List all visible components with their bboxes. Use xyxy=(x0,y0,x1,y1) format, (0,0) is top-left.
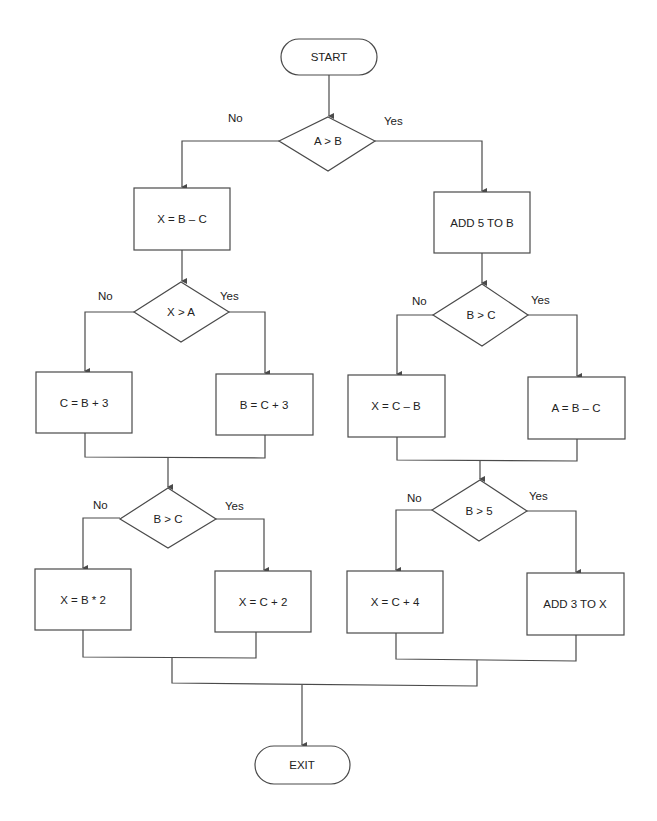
merge-left-lower xyxy=(83,630,256,658)
branch-label-no: No xyxy=(407,492,422,504)
process-x-eq-c-plus-2: X = C + 2 xyxy=(215,571,311,632)
process-label: X = C – B xyxy=(371,400,421,412)
process-x-eq-b-minus-c: X = B – C xyxy=(134,188,230,250)
process-x-eq-c-minus-b: X = C – B xyxy=(348,375,445,437)
merge-final xyxy=(172,658,477,686)
process-label: X = C + 2 xyxy=(239,596,288,608)
merge-right-lower xyxy=(396,633,576,661)
connector-d2-no xyxy=(85,312,134,371)
decision-b-gt-c-label: B > C xyxy=(153,513,182,525)
process-label: X = C + 4 xyxy=(371,596,420,608)
branch-label-yes: Yes xyxy=(225,500,244,512)
merge-right-upper xyxy=(397,437,577,461)
process-label: ADD 5 TO B xyxy=(450,217,514,229)
process-label: X = B * 2 xyxy=(60,594,106,606)
decision-b-gt-c-lower: B > C xyxy=(120,488,216,548)
connector-d4-no xyxy=(83,518,120,568)
decision-a-gt-b: A > B xyxy=(279,117,375,171)
process-x-eq-b-times-2: X = B * 2 xyxy=(35,569,131,630)
process-label: B = C + 3 xyxy=(240,399,289,411)
start-terminal: START xyxy=(281,39,377,75)
connector-d5-yes xyxy=(527,511,576,572)
connector-d3-yes xyxy=(528,315,577,376)
decision-b-gt-c-upper: B > C xyxy=(433,284,528,346)
branch-label-no: No xyxy=(228,112,243,124)
decision-b-gt-5-label: B > 5 xyxy=(465,505,492,517)
branch-label-no: No xyxy=(98,290,113,302)
connector-d2-yes xyxy=(229,312,265,373)
branch-label-yes: Yes xyxy=(529,490,548,502)
process-label: A = B – C xyxy=(552,402,601,414)
process-label: C = B + 3 xyxy=(60,397,109,409)
merge-left-upper xyxy=(85,433,265,458)
process-add-5-to-b: ADD 5 TO B xyxy=(434,192,530,253)
process-b-eq-c-plus-3: B = C + 3 xyxy=(216,374,313,435)
exit-terminal: EXIT xyxy=(255,746,350,784)
branch-label-no: No xyxy=(93,499,108,511)
connector-d1-no xyxy=(182,141,279,187)
branch-label-yes: Yes xyxy=(531,294,550,306)
process-a-eq-b-minus-c: A = B – C xyxy=(528,377,625,439)
connector-d5-no xyxy=(396,510,432,570)
decision-b-gt-c-label: B > C xyxy=(466,309,495,321)
branch-label-no: No xyxy=(412,295,427,307)
decision-a-gt-b-label: A > B xyxy=(314,135,342,147)
decision-x-gt-a: X > A xyxy=(134,282,229,342)
process-label: ADD 3 TO X xyxy=(543,598,607,610)
decision-b-gt-5: B > 5 xyxy=(432,480,527,541)
process-c-eq-b-plus-3: C = B + 3 xyxy=(36,372,132,433)
connector-d4-yes xyxy=(216,519,264,570)
process-x-eq-c-plus-4: X = C + 4 xyxy=(347,571,443,633)
decision-x-gt-a-label: X > A xyxy=(167,306,195,318)
process-add-3-to-x: ADD 3 TO X xyxy=(527,573,624,635)
start-label: START xyxy=(311,51,348,63)
flowchart-canvas: START A > B No Yes X = B – C ADD 5 TO B … xyxy=(0,0,657,821)
exit-label: EXIT xyxy=(289,759,315,771)
process-label: X = B – C xyxy=(157,213,207,225)
connector-d1-yes xyxy=(375,141,482,191)
connector-d3-no xyxy=(397,315,433,374)
branch-label-yes: Yes xyxy=(384,115,403,127)
branch-label-yes: Yes xyxy=(220,290,239,302)
